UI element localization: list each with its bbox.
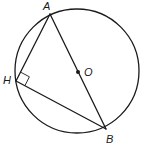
label-a: A (42, 0, 50, 12)
label-b: B (106, 133, 113, 145)
geometry-diagram: A B H O (0, 0, 145, 146)
segment-hb (16, 81, 106, 129)
label-h: H (3, 74, 11, 86)
segment-ah (16, 14, 50, 81)
center-point-o (76, 70, 80, 74)
label-o: O (84, 66, 93, 78)
